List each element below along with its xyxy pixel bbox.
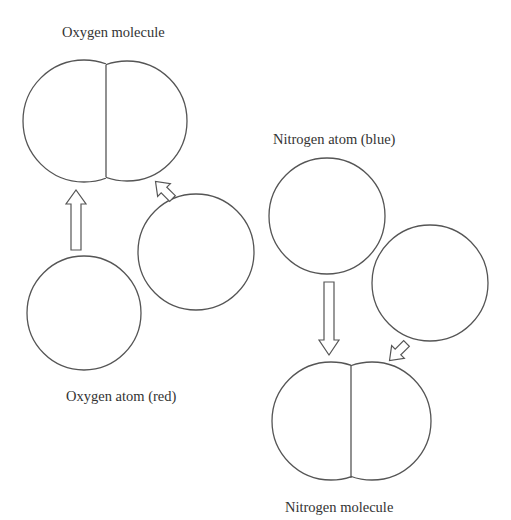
oxygen-atom-right (138, 194, 254, 310)
nitrogen-molecule-right-lobe (313, 362, 431, 480)
nitrogen-atom-top (269, 158, 385, 274)
oxygen-atom-label: Oxygen atom (red) (66, 388, 176, 405)
oxygen-molecule-left-lobe (23, 60, 145, 182)
nitrogen-molecule (272, 362, 431, 480)
arrow-diagonal-down-left-icon (383, 337, 413, 367)
nitrogen-atom-right (372, 225, 488, 341)
oxygen-molecule (23, 60, 187, 182)
oxygen-atom-bottom (27, 256, 141, 370)
nitrogen-molecule-label: Nitrogen molecule (285, 499, 393, 516)
oxygen-molecule-label: Oxygen molecule (62, 24, 165, 41)
nitrogen-atom-label: Nitrogen atom (blue) (273, 131, 395, 148)
nitrogen-molecule-left-lobe (272, 362, 390, 480)
oxygen-molecule-right-lobe (67, 61, 187, 181)
arrow-down-icon (319, 282, 339, 355)
arrow-diagonal-up-left-icon (149, 175, 179, 205)
molecule-diagram (0, 0, 511, 520)
arrow-up-icon (66, 190, 86, 250)
